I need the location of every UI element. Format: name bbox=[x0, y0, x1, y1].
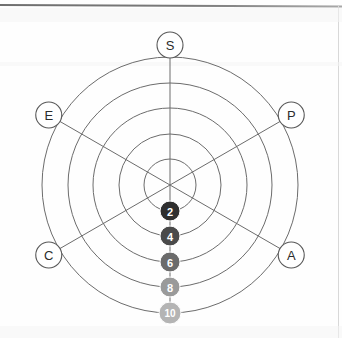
radar-chart-page: SPACE 246810 bbox=[0, 0, 342, 338]
scale-tick-text-8: 8 bbox=[167, 282, 173, 294]
axis-label-text-A: A bbox=[287, 248, 296, 263]
scale-tick-text-10: 10 bbox=[164, 308, 176, 319]
axis-label-text-E: E bbox=[44, 108, 53, 123]
axis-label-P: P bbox=[278, 102, 304, 128]
scale-tick-text-6: 6 bbox=[167, 257, 173, 269]
scale-tick-2: 2 bbox=[160, 201, 180, 221]
axis-label-C: C bbox=[36, 242, 62, 268]
axis-label-S: S bbox=[157, 32, 183, 58]
axis-label-A: A bbox=[278, 242, 304, 268]
radar-spoke--150 bbox=[59, 185, 170, 249]
axis-label-E: E bbox=[36, 102, 62, 128]
axis-label-text-S: S bbox=[166, 38, 175, 53]
scale-tick-4: 4 bbox=[160, 226, 180, 246]
scale-tick-text-2: 2 bbox=[167, 206, 173, 218]
radar-scale-tick-group: 246810 bbox=[159, 201, 181, 324]
scale-tick-8: 8 bbox=[160, 277, 180, 297]
axis-label-text-C: C bbox=[44, 248, 53, 263]
radar-chart: SPACE 246810 bbox=[0, 0, 342, 338]
scale-tick-10: 10 bbox=[159, 302, 181, 324]
radar-spoke--30 bbox=[170, 185, 281, 249]
radar-spoke-30 bbox=[170, 121, 281, 185]
scale-tick-text-4: 4 bbox=[167, 231, 174, 243]
scale-tick-6: 6 bbox=[160, 252, 180, 272]
radar-spoke-group bbox=[59, 57, 281, 313]
radar-spoke-150 bbox=[59, 121, 170, 185]
axis-label-text-P: P bbox=[287, 108, 296, 123]
